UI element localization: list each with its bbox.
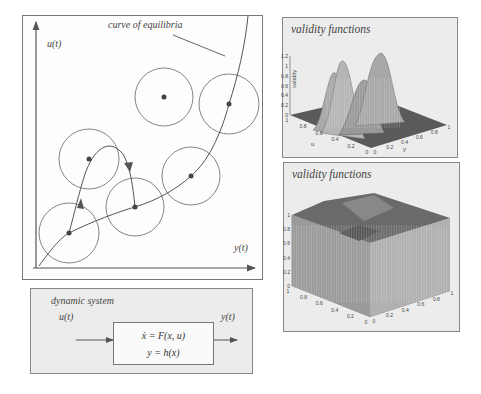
y-tick-label: 0.6 — [417, 301, 424, 307]
system-equation-box: ẋ = F(x, u) y = h(x) — [113, 322, 214, 365]
z-tick-label: 0.2 — [281, 102, 288, 108]
trajectory-path — [69, 146, 135, 233]
u-tick-label: 0 — [365, 319, 368, 325]
z-tick-label: 1.2 — [281, 53, 288, 59]
z-tick-label: 0.4 — [281, 92, 288, 98]
z-tick-label: 0.2 — [283, 269, 290, 275]
y-tick-label: 0.4 — [401, 139, 408, 145]
u-tick-label: 0.2 — [348, 143, 355, 149]
z-tick-label: 0.4 — [283, 255, 290, 261]
z-tick-label: 0.8 — [283, 226, 290, 232]
surface-plot-partition: 00.20.40.60.81 10.80.60.40.20 00.20.40.6… — [284, 163, 461, 333]
u-tick-label: 0.8 — [300, 294, 307, 300]
y-axis-label: y — [403, 146, 406, 152]
z-axis-label: validity — [291, 70, 297, 88]
u-tick-label: 0.6 — [316, 300, 323, 306]
y-tick-label: 0.2 — [386, 312, 393, 318]
z-tick-label: 0.8 — [281, 73, 288, 79]
y-tick-label: 1 — [451, 290, 454, 296]
u-tick-label: 0.6 — [316, 130, 323, 136]
z-tick-label: 0.6 — [281, 83, 288, 89]
off-equilibrium-point — [162, 95, 167, 100]
surface-plot-peaks: 00.20.40.60.811.2 validity 10.80.60.40.2… — [283, 18, 459, 159]
y-tick-label: 0.2 — [386, 144, 393, 150]
equilibria-canvas — [23, 16, 264, 281]
u-tick-label: 0.4 — [332, 136, 339, 142]
y-tick-label: 0.8 — [433, 296, 440, 302]
u-axis-label: u — [311, 141, 314, 147]
trajectory-arrow-icon — [124, 162, 133, 172]
off-equilibrium-point — [87, 157, 92, 162]
state-equation: ẋ = F(x, u) — [114, 330, 213, 341]
equilibrium-point — [227, 102, 232, 107]
y-tick-label: 0.8 — [431, 129, 438, 135]
y-tick-label: 0.4 — [402, 307, 409, 313]
equilibrium-point — [189, 174, 194, 179]
y-tick-label: 0 — [373, 318, 376, 324]
u-axis-label: u(t) — [47, 38, 61, 49]
dynamic-system-panel: dynamic system u(t) y(t) ẋ = F(x, u) y =… — [30, 288, 253, 374]
z-tick-label: 1 — [287, 212, 290, 218]
u-tick-label: 1 — [287, 288, 290, 294]
z-tick-label: 1 — [285, 63, 288, 69]
u-tick-label: 0.2 — [347, 313, 354, 319]
validity-plot-partition: validity functions 00.20.40.60.81 10.80.… — [283, 162, 460, 332]
y-tick-label: 0 — [374, 149, 377, 155]
u-tick-label: 0.4 — [331, 307, 338, 313]
curve-label-pointer — [173, 35, 225, 56]
output-equation: y = h(x) — [114, 347, 213, 358]
y-tick-label: 0.6 — [416, 134, 423, 140]
z-tick-label: 0.6 — [283, 240, 290, 246]
equilibrium-point — [133, 205, 138, 210]
equilibria-diagram: u(t) curve of equilibria y(t) — [22, 15, 263, 280]
y-tick-label: 1 — [448, 124, 451, 130]
u-tick-label: 1 — [286, 117, 289, 123]
equilibrium-point — [67, 231, 72, 236]
y-axis-label: y(t) — [234, 242, 248, 253]
u-tick-label: 0.8 — [300, 123, 307, 129]
validity-plot-peaks: validity functions 00.20.40.60.811.2 val… — [282, 17, 458, 158]
u-tick-label: 0 — [366, 149, 369, 155]
curve-label: curve of equilibria — [108, 19, 182, 30]
